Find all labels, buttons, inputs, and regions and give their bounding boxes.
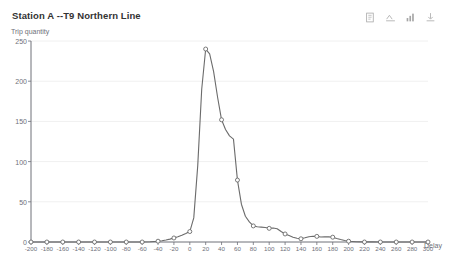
chart-toolbox xyxy=(365,12,436,23)
data-view-icon[interactable] xyxy=(365,12,376,23)
chart-title: Station A --T9 Northern Line xyxy=(12,10,141,21)
line-bar-switch-icon[interactable] xyxy=(385,12,396,23)
data-point-marker xyxy=(140,240,144,244)
data-point-marker xyxy=(77,240,81,244)
y-tick-label: 250 xyxy=(5,38,27,45)
y-tick-label: 100 xyxy=(5,158,27,165)
data-point-marker xyxy=(172,236,176,240)
data-point-marker xyxy=(61,240,65,244)
line-chart-svg xyxy=(31,41,428,242)
data-point-marker xyxy=(362,240,366,244)
data-point-marker xyxy=(29,240,33,244)
data-point-marker xyxy=(220,118,224,122)
magic-type-icon[interactable] xyxy=(405,12,416,23)
data-point-marker xyxy=(45,240,49,244)
data-point-marker xyxy=(426,240,430,244)
data-point-marker xyxy=(331,235,335,239)
data-point-marker xyxy=(267,226,271,230)
data-point-marker xyxy=(410,240,414,244)
data-point-marker xyxy=(188,230,192,234)
data-point-marker xyxy=(124,240,128,244)
plot-area xyxy=(31,41,428,242)
data-point-marker xyxy=(108,240,112,244)
y-tick-label: 200 xyxy=(5,78,27,85)
data-point-marker xyxy=(93,240,97,244)
data-point-marker xyxy=(347,239,351,243)
y-tick-label: 150 xyxy=(5,118,27,125)
series-line xyxy=(31,49,428,242)
save-image-icon[interactable] xyxy=(425,12,436,23)
data-point-marker xyxy=(378,240,382,244)
data-point-marker xyxy=(235,178,239,182)
y-axis-name: Trip quantity xyxy=(11,28,49,35)
x-tick-label: 300 xyxy=(417,245,439,252)
chart-container: Station A --T9 Northern Line Trip quanti… xyxy=(0,0,450,267)
data-point-marker xyxy=(283,232,287,236)
data-point-marker xyxy=(315,234,319,238)
data-point-marker xyxy=(299,237,303,241)
data-point-marker xyxy=(394,240,398,244)
data-point-marker xyxy=(204,47,208,51)
data-point-marker xyxy=(251,224,255,228)
y-tick-label: 50 xyxy=(5,198,27,205)
data-point-marker xyxy=(156,239,160,243)
